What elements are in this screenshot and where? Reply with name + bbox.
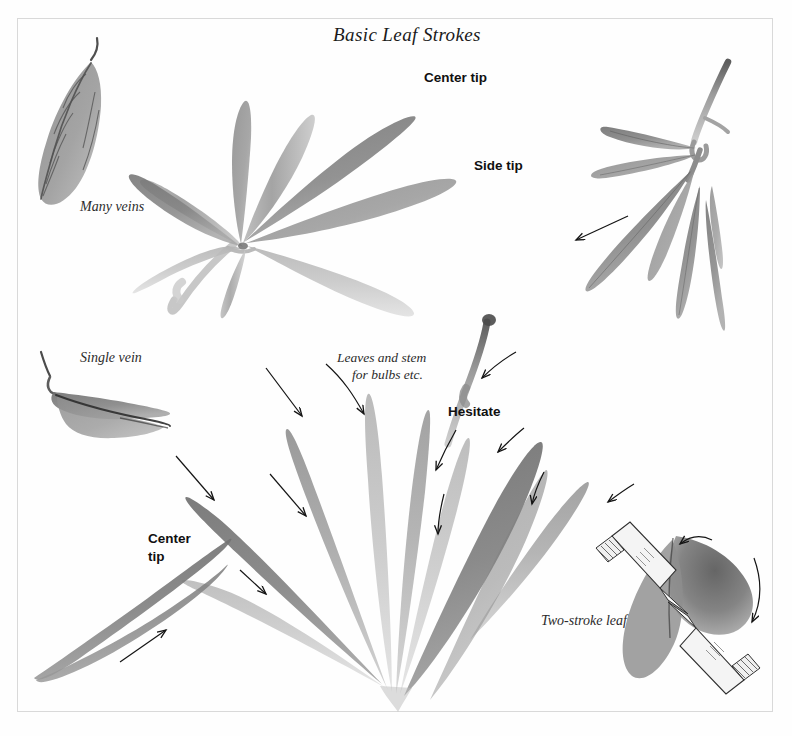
illustration-page: Basic Leaf Strokes Center tip Side tip M… [0, 0, 792, 736]
figure-center-tip-leaf [34, 539, 231, 682]
figure-many-veins-leaf [38, 38, 101, 205]
arrow-fan-upper-left [266, 368, 302, 416]
arrow-fan-right-upper [498, 428, 524, 452]
label-center-tip-left-line1: Center [148, 531, 191, 547]
label-leaves-and-stem-line1: Leaves and stem [337, 350, 426, 366]
label-single-vein: Single vein [80, 350, 142, 367]
label-leaves-and-stem-line2: for bulbs etc. [352, 367, 423, 383]
label-hesitate: Hesitate [448, 404, 501, 420]
arrow-drooping-cluster [576, 216, 628, 240]
page-title: Basic Leaf Strokes [333, 24, 481, 46]
figure-drooping-leaf-cluster [576, 62, 728, 331]
arrow-fan-far-left [176, 456, 214, 500]
label-center-tip-left-line2: tip [148, 549, 165, 565]
arrow-center-tip-leaf [120, 630, 166, 662]
arrow-fan-far-right [608, 484, 634, 502]
arrow-hesitate-upper [436, 430, 456, 470]
figure-bamboo-spray [129, 101, 456, 318]
figure-two-stroke-leaf [596, 522, 760, 694]
arrow-two-stroke-second [752, 558, 760, 622]
label-side-tip: Side tip [474, 158, 523, 174]
label-two-stroke-leaf: Two-stroke leaf [541, 613, 627, 630]
label-many-veins: Many veins [80, 199, 144, 216]
arrow-bulb-stem-top [482, 352, 516, 378]
label-center-tip-top: Center tip [424, 70, 487, 86]
